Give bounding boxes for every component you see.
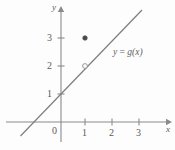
y-axis-label: y (52, 3, 56, 12)
y-tick-label-2: 2 (47, 61, 52, 71)
y-axis-arrowhead (58, 6, 64, 12)
x-tick-label-3: 3 (136, 128, 141, 138)
x-tick-label-1: 1 (82, 128, 87, 138)
y-tick-label-3: 3 (47, 33, 52, 43)
y-tick-label-1: 1 (47, 89, 52, 99)
curve-equation-label: y = g(x) (113, 48, 143, 58)
x-axis-label: x (166, 125, 170, 134)
x-tick-label-2: 2 (109, 128, 114, 138)
open-point-marker (83, 64, 88, 69)
plot-canvas (0, 0, 175, 150)
function-line-g (21, 10, 143, 136)
filled-point-marker (83, 36, 88, 41)
curve-label-operator: = (117, 47, 127, 57)
graph-figure: y x 0 1 2 3 1 2 3 y = g(x) (0, 0, 175, 150)
curve-label-rhs: g(x) (127, 47, 142, 57)
origin-tick-label: 0 (52, 126, 57, 136)
